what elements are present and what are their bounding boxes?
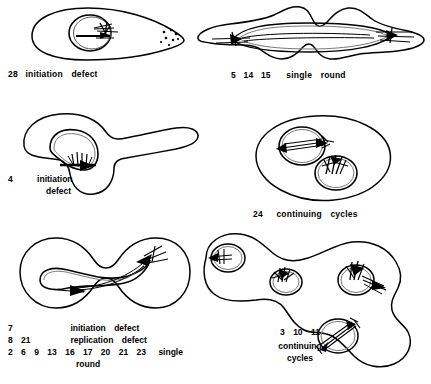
figure-root: 28 initiation defect (0, 0, 431, 384)
caption-ids-8-21: 8 21 (8, 334, 68, 346)
cell-diagram-24 (250, 112, 410, 204)
caption-phenotype-28: initiation defect (25, 68, 103, 80)
caption-panel-3-10-11: 3 10 11 continuing cycles (240, 326, 360, 364)
caption-ids-4: 4 (8, 173, 19, 185)
caption-ids-3-10-11: 3 10 11 (240, 326, 360, 338)
cell-outline (20, 238, 190, 308)
cell-outline (32, 8, 184, 60)
caption-ids-7: 7 (8, 322, 68, 334)
cell-diagram-5-14-15 (190, 2, 430, 64)
cell-diagram-28 (14, 4, 204, 64)
panel-continuing-cycles-24 (250, 112, 410, 204)
caption-panel-28: 28 initiation defect (8, 68, 104, 80)
caption-panel-4: 4 initiation defect (8, 173, 79, 197)
panel-bottom-left-multi (14, 232, 194, 314)
caption-panel-bottom-left: 7 initiation defect 8 21 replication def… (8, 322, 189, 370)
cell-diagram-bottom-left (14, 232, 194, 314)
caption-row-replication: 8 21 replication defect (8, 334, 189, 346)
caption-ids-24: 24 (253, 208, 268, 220)
caption-row-continuing: continuing (240, 340, 360, 352)
caption-ids-5-14-15: 5 14 15 (231, 69, 276, 81)
panel-single-round-5-14-15 (190, 2, 430, 64)
caption-phenotype-5-14-15: single round (286, 69, 351, 81)
caption-phenotype-24: continuing cycles (276, 208, 363, 220)
caption-panel-5-14-15: 5 14 15 single round (231, 69, 352, 81)
caption-row-2: defect (8, 185, 79, 197)
caption-ids-28: 28 (8, 68, 23, 80)
cell-outline (256, 116, 390, 201)
caption-row-initiation: 7 initiation defect (8, 322, 189, 334)
caption-ids-single-round: 2 6 9 13 16 17 20 21 23 (8, 346, 152, 358)
caption-panel-24: 24 continuing cycles (253, 208, 364, 220)
caption-row-1: 4 initiation (8, 173, 79, 185)
caption-row-round: round (8, 358, 189, 370)
panel-initiation-defect-28 (14, 4, 204, 64)
caption-row-cycles: cycles (240, 352, 360, 364)
caption-row-single-round: 2 6 9 13 16 17 20 21 23 single (8, 346, 189, 358)
